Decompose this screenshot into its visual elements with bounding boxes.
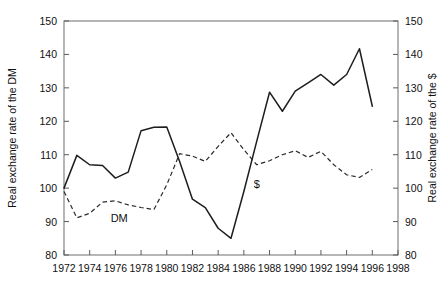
x-tick-label-1988: 1988: [258, 262, 282, 274]
x-axis-ticks: [64, 250, 398, 255]
x-tick-label-1984: 1984: [206, 262, 230, 274]
y-left-tick-label-140: 140: [39, 48, 57, 60]
y-left-tick-label-120: 120: [39, 115, 57, 127]
y-left-tick-label-90: 90: [45, 216, 57, 228]
x-tick-label-1996: 1996: [361, 262, 385, 274]
right-axis-title: Real exchange rate of the $: [426, 73, 438, 202]
x-tick-label-1998: 1998: [386, 262, 410, 274]
y-axis-right-tick-labels: 8090100110120130140150: [405, 15, 423, 261]
x-tick-label-1990: 1990: [284, 262, 308, 274]
y-left-tick-label-110: 110: [40, 149, 57, 161]
y-right-tick-label-120: 120: [405, 115, 423, 127]
y-left-tick-label-130: 130: [39, 82, 57, 94]
x-tick-label-1980: 1980: [155, 262, 179, 274]
y-right-tick-label-110: 110: [405, 149, 422, 161]
y-right-tick-label-140: 140: [405, 48, 423, 60]
y-right-tick-label-130: 130: [405, 82, 423, 94]
x-tick-label-1974: 1974: [78, 262, 102, 274]
y-left-tick-label-150: 150: [39, 15, 57, 27]
series-annotation-dollar: $: [254, 178, 260, 190]
x-tick-label-1992: 1992: [309, 262, 333, 274]
x-tick-label-1986: 1986: [232, 262, 256, 274]
x-axis-tick-labels: 1972197419761978198019821984198619881990…: [52, 262, 410, 274]
series-line-dollar: [64, 49, 372, 239]
x-tick-label-1994: 1994: [335, 262, 359, 274]
x-tick-label-1978: 1978: [129, 262, 153, 274]
y-axis-left-tick-labels: 8090100110120130140150: [39, 15, 57, 261]
series-line-dm: [64, 133, 372, 218]
y-right-tick-label-80: 80: [405, 249, 417, 261]
exchange-rate-chart: 1972197419761978198019821984198619881990…: [0, 0, 445, 290]
x-tick-label-1976: 1976: [104, 262, 128, 274]
y-axis-right-ticks: [393, 21, 398, 255]
y-right-tick-label-90: 90: [405, 216, 417, 228]
data-series-group: [64, 49, 372, 239]
y-left-tick-label-80: 80: [45, 249, 57, 261]
x-tick-label-1982: 1982: [181, 262, 205, 274]
chart-canvas: 1972197419761978198019821984198619881990…: [0, 0, 445, 290]
y-right-tick-label-100: 100: [405, 182, 423, 194]
y-right-tick-label-150: 150: [405, 15, 423, 27]
y-axis-left-ticks: [64, 21, 69, 255]
left-axis-title: Real exchange rate of the DM: [6, 68, 18, 208]
y-left-tick-label-100: 100: [39, 182, 57, 194]
x-tick-label-1972: 1972: [52, 262, 76, 274]
series-annotation-dm: DM: [111, 212, 128, 224]
